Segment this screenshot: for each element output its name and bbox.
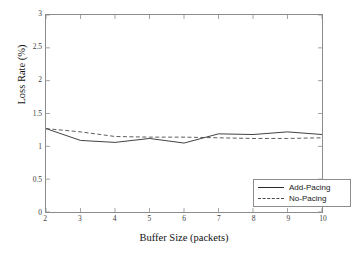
x-tick-label: 8 [252,215,256,223]
x-tick-label: 7 [217,215,221,223]
y-axis-title: Loss Rate (%) [16,10,27,140]
x-axis-tick-labels: 2345678910 [45,215,323,227]
legend-label-no-pacing: No-Pacing [289,195,326,203]
y-tick-label: 3 [38,10,42,18]
legend: Add-Pacing No-Pacing [253,179,351,207]
y-tick-label: 1 [38,143,42,151]
x-tick-label: 3 [78,215,82,223]
x-tick-label: 4 [113,215,117,223]
y-tick-label: 2.5 [33,43,42,51]
legend-entry-no-pacing: No-Pacing [258,193,326,205]
legend-line-sample-solid [258,187,284,189]
x-tick-label: 10 [319,215,327,223]
x-tick-label: 2 [43,215,47,223]
y-tick-label: 0 [38,209,42,217]
x-tick-label: 6 [182,215,186,223]
series-line-add-pacing [46,129,322,143]
legend-line-sample-dashed [258,198,284,200]
y-tick-label: 1.5 [33,110,42,118]
x-tick-label: 5 [147,215,151,223]
series-line-no-pacing [46,129,322,139]
y-tick-label: 0.5 [33,176,42,184]
series-lines [46,129,322,143]
legend-label-add-pacing: Add-Pacing [289,184,330,192]
y-tick-label: 2 [38,77,42,85]
plot-area: Add-Pacing No-Pacing [45,14,323,213]
x-tick-label: 9 [286,215,290,223]
x-axis-title: Buffer Size (packets) [45,232,323,243]
